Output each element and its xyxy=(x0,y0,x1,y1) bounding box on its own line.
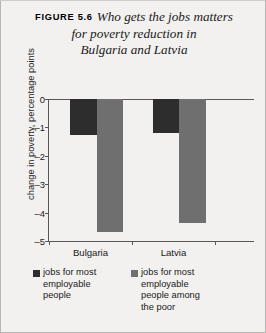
x-tick-mark-left xyxy=(49,241,50,245)
x-category-label-bulgaria: Bulgaria xyxy=(49,247,132,258)
legend-label-line-3: people xyxy=(43,290,131,302)
legend-swatch-icon-dark xyxy=(33,270,40,277)
y-tick-label-4: –4 xyxy=(23,208,45,219)
legend-swatch-icon-gray xyxy=(131,270,138,277)
bar-latvia-employable xyxy=(153,99,179,133)
legend-label-line-2: employable xyxy=(43,279,131,291)
y-tick-label-5: –5 xyxy=(23,236,45,247)
x-tick-mark-mid xyxy=(132,241,133,245)
figure-title-text-1: Who gets the jobs matters xyxy=(97,9,233,24)
y-tick-label-0: 0 xyxy=(23,94,45,105)
y-tick-label-1: –1 xyxy=(23,122,45,133)
bar-bulgaria-employable-poor xyxy=(97,99,123,232)
bar-bulgaria-employable xyxy=(70,99,97,135)
plot-area xyxy=(49,99,254,241)
legend-item-employable-poor: jobs for most employable people among th… xyxy=(131,267,243,313)
figure-container: FIGURE 5.6Who gets the jobs matters for … xyxy=(0,0,266,333)
y-tick-label-3: –3 xyxy=(23,179,45,190)
legend-item-employable: jobs for most employable people xyxy=(33,267,131,302)
x-axis-line xyxy=(48,241,254,242)
legend-label-poor-line-4: the poor xyxy=(141,302,243,314)
x-category-label-latvia: Latvia xyxy=(132,247,215,258)
legend-label-line-1: jobs for most xyxy=(43,267,131,279)
legend-label-poor-line-3: people among xyxy=(141,290,243,302)
legend-label-poor-line-2: employable xyxy=(141,279,243,291)
legend-label-poor-line-1: jobs for most xyxy=(141,267,243,279)
bar-latvia-employable-poor xyxy=(179,99,206,223)
y-tick-label-2: –2 xyxy=(23,151,45,162)
x-tick-mark-right xyxy=(215,241,216,245)
